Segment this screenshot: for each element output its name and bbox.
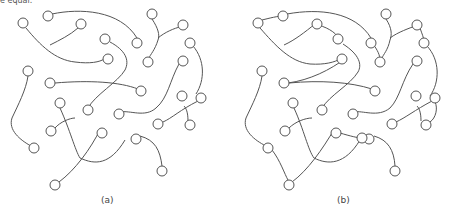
diagram-canvas	[0, 0, 449, 200]
panel-b-nodes	[253, 9, 440, 190]
panel-b-caption: (b)	[337, 195, 350, 205]
panel-a-caption: (a)	[101, 195, 114, 205]
panel-a-nodes	[18, 9, 206, 190]
